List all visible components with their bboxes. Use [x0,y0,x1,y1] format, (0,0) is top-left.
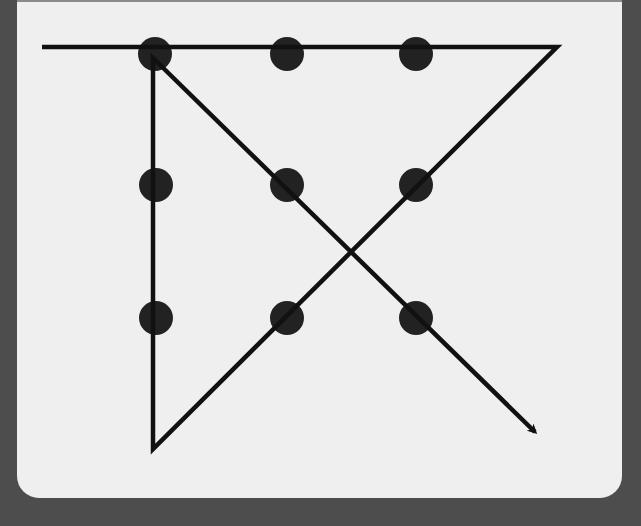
dot-r1-c2 [270,37,304,71]
dot-r1-c3 [399,37,433,71]
nine-dot-diagram [0,0,641,526]
solution-path [42,47,557,449]
dot-r2-c2 [270,168,304,202]
dot-r3-c1 [139,301,173,335]
dot-r2-c1 [139,168,173,202]
